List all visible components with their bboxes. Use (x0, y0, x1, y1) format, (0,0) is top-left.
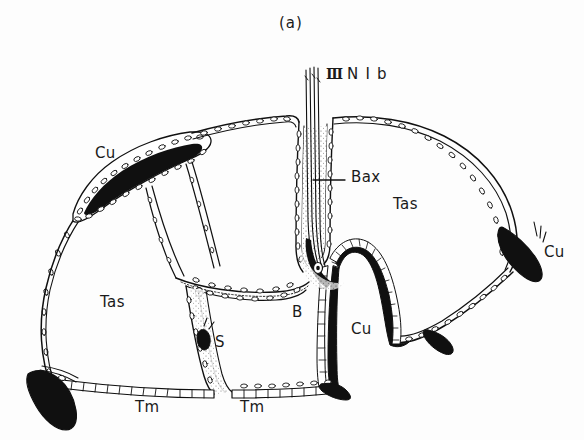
nerve-roman-numeral: Ⅲ (326, 66, 343, 82)
anatomical-cross-section-drawing (0, 0, 584, 440)
cuticle-label-right: Cu (544, 245, 565, 260)
bax-label: Bax (351, 170, 381, 185)
cuticle-label-center: Cu (351, 322, 372, 337)
sense-organ-label: S (215, 335, 225, 350)
panel-caption: (a) (279, 16, 303, 31)
figure-panel-a: (a) ⅢN I b Bax Cu Cu Cu Tas Tas Tm Tm S … (0, 0, 584, 440)
tas-label-left: Tas (100, 295, 125, 310)
tas-label-right: Tas (393, 197, 418, 212)
nerve-label: ⅢN I b (326, 67, 388, 82)
cuticle-label-left: Cu (95, 146, 116, 161)
tm-label-right: Tm (240, 400, 265, 415)
tm-label-left: Tm (135, 400, 160, 415)
basalar-label: B (292, 305, 303, 320)
nerve-label-text: N I b (347, 65, 388, 83)
